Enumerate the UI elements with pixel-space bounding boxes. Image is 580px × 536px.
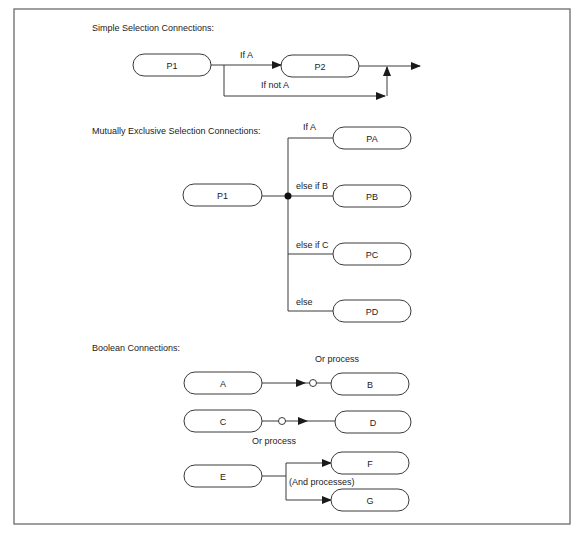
label-if-a-mutex: If A (303, 122, 316, 132)
label-if-not-a: If not A (261, 80, 289, 90)
label-or-process-2: Or process (252, 436, 297, 446)
section-title-mutex: Mutually Exclusive Selection Connections… (92, 126, 261, 136)
process-box-c[interactable]: C (184, 410, 262, 432)
label-if-a: If A (240, 50, 253, 60)
label-else-if-c: else if C (296, 240, 329, 250)
process-box-p2[interactable]: P2 (281, 55, 359, 77)
svg-text:PC: PC (366, 250, 379, 260)
outer-frame (14, 9, 570, 524)
svg-text:C: C (220, 417, 227, 427)
svg-text:G: G (366, 496, 373, 506)
process-box-p1-simple[interactable]: P1 (133, 54, 211, 76)
process-box-e[interactable]: E (184, 465, 262, 487)
svg-text:B: B (367, 380, 373, 390)
process-box-pd[interactable]: PD (333, 300, 411, 322)
process-box-pc[interactable]: PC (333, 243, 411, 265)
process-box-f[interactable]: F (331, 452, 409, 474)
boolean-section: Boolean Connections: Or process A B C D … (92, 343, 411, 511)
or-connector-circle-1 (310, 380, 317, 387)
svg-text:F: F (367, 459, 373, 469)
process-box-g[interactable]: G (331, 489, 409, 511)
svg-text:A: A (220, 379, 226, 389)
label-else-if-b: else if B (296, 181, 328, 191)
section-title-boolean: Boolean Connections: (92, 343, 180, 353)
or-connector-circle-2 (279, 418, 286, 425)
process-box-b[interactable]: B (331, 373, 409, 395)
svg-text:E: E (220, 472, 226, 482)
svg-text:PB: PB (366, 192, 378, 202)
svg-text:PA: PA (366, 134, 377, 144)
svg-text:D: D (370, 418, 377, 428)
mutex-selection-section: Mutually Exclusive Selection Connections… (92, 122, 411, 322)
svg-text:P1: P1 (166, 61, 177, 71)
label-else: else (296, 297, 313, 307)
process-box-d[interactable]: D (335, 411, 411, 433)
label-or-process-1: Or process (315, 354, 360, 364)
process-box-pb[interactable]: PB (333, 185, 411, 207)
svg-text:P1: P1 (217, 191, 228, 201)
process-box-pa[interactable]: PA (333, 127, 411, 149)
svg-text:PD: PD (366, 307, 379, 317)
label-and-processes: (And processes) (289, 477, 355, 487)
diagram-canvas: Simple Selection Connections: P1 P2 If A… (0, 0, 580, 536)
process-box-a[interactable]: A (184, 372, 262, 394)
svg-text:P2: P2 (314, 62, 325, 72)
junction-dot (285, 193, 292, 200)
simple-selection-section: Simple Selection Connections: P1 P2 If A… (92, 23, 420, 96)
section-title-simple: Simple Selection Connections: (92, 23, 214, 33)
process-box-p1-mutex[interactable]: P1 (183, 184, 262, 206)
